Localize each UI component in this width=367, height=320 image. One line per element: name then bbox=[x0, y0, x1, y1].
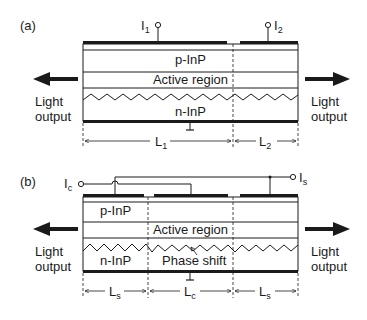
bottom-electrode-b bbox=[83, 270, 298, 273]
length-l1: L1 bbox=[155, 134, 167, 151]
length-lc: Lc bbox=[184, 284, 196, 301]
bottom-electrode-a bbox=[83, 120, 298, 123]
current-i1-label: I1 bbox=[141, 18, 150, 35]
arrow-right-icon bbox=[305, 72, 350, 86]
terminal-i2-icon bbox=[265, 22, 270, 27]
terminal-ic-icon bbox=[78, 181, 83, 186]
current-is-label: Is bbox=[299, 170, 308, 187]
arrow-left-icon-b bbox=[33, 222, 78, 236]
layer-p-inp-b: p-InP bbox=[100, 203, 131, 218]
panel-b: (b) Ic Is p-InP Active region n-InP Phas… bbox=[20, 170, 350, 301]
light-output-left-a: Lightoutput bbox=[35, 94, 72, 124]
length-ls-left: Ls bbox=[109, 284, 121, 301]
panel-a: (a) I1 I2 p-InP Active region n-InP L1 L… bbox=[20, 18, 350, 151]
arrow-left-icon bbox=[33, 72, 78, 86]
panel-b-label: (b) bbox=[20, 174, 36, 189]
length-l2: L2 bbox=[259, 134, 271, 151]
panel-a-label: (a) bbox=[20, 18, 36, 33]
layer-active: Active region bbox=[153, 72, 228, 87]
arrow-right-icon-b bbox=[305, 222, 350, 236]
layer-active-b: Active region bbox=[153, 222, 228, 237]
light-output-right-b: Lightoutput bbox=[311, 244, 348, 274]
terminal-i1-icon bbox=[155, 22, 160, 27]
grating-a bbox=[83, 94, 298, 100]
length-ls-right: Ls bbox=[259, 284, 271, 301]
grating-b bbox=[83, 244, 298, 252]
current-ic-label: Ic bbox=[64, 176, 73, 193]
current-i2-label: I2 bbox=[274, 18, 283, 35]
light-output-right-a: Lightoutput bbox=[311, 94, 348, 124]
layer-n-inp-b: n-InP bbox=[100, 253, 131, 268]
terminal-is-icon bbox=[290, 174, 295, 179]
phase-shift-label: Phase shift bbox=[162, 253, 227, 268]
laser-diagram: (a) I1 I2 p-InP Active region n-InP L1 L… bbox=[0, 0, 367, 320]
layer-p-inp: p-InP bbox=[175, 52, 206, 67]
light-output-left-b: Lightoutput bbox=[35, 244, 72, 274]
layer-n-inp: n-InP bbox=[175, 104, 206, 119]
